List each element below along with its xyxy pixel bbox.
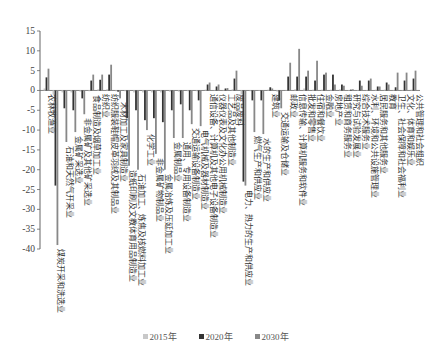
bar-2020-3 [72,90,74,110]
category-label-text: 交通运输及仓储业 [280,112,290,176]
bar-2030-14 [173,90,175,138]
category-label-text: 通用、专用设备制造业 [182,142,192,222]
category-label-text: 综合技术服务业 [361,94,371,150]
category-label: 燃气生产和供应业 [253,136,263,200]
bar-2015-23 [249,90,251,91]
category-label: 仪器仪表及文化办公用机械制造业 [218,94,228,214]
category-label: 居民服务和其他服务业 [379,94,389,174]
category-label: 木材加工及家具制造业 [119,102,129,182]
category-label: 非金属矿物制品业 [155,158,165,222]
category-label-text: 石油和天然气开采业 [65,146,75,218]
y-tick-label: 5 [30,66,35,76]
legend-swatch-2020 [199,334,204,339]
bar-2030-17 [200,90,202,126]
category-label-text: 文化、体育和娱乐业 [406,94,416,166]
category-label-text: 金属制品业 [173,142,183,182]
bar-2015-30 [312,90,314,91]
bar-2020-25 [269,87,271,90]
bar-2020-0 [46,77,48,90]
bar-2020-33 [341,85,343,91]
category-label: 废品废料 [235,94,245,126]
bar-2030-21 [236,71,238,91]
y-tick-label: -25 [22,185,35,195]
bar-2030-33 [343,86,345,91]
category-label-text: 交通运输设备制造业 [191,128,201,200]
bar-2015-5 [88,90,90,91]
category-label: 综合技术服务业 [361,94,371,150]
bar-2020-6 [99,80,101,91]
legend-item-2015: 2015年 [143,330,177,343]
category-label-text: 居民服务和其他服务业 [379,94,389,174]
bar-2030-25 [271,88,273,90]
y-tick-label: -30 [22,204,35,214]
category-label-text: 卫生、社会保障和社会福利业 [397,94,407,198]
legend-swatch-2030 [255,334,260,339]
category-label-text: 研究与试验发展业 [352,94,362,158]
bar-2020-35 [359,81,361,91]
y-tick-label: -10 [22,125,35,135]
category-label: 房地产业 [334,94,344,126]
bar-2030-35 [361,86,363,91]
bar-2015-14 [169,90,171,91]
bar-2015-25 [267,90,269,91]
category-label-text: 非金属矿物制品业 [155,158,165,222]
category-label-text: 租赁和商务服务业 [343,94,353,158]
category-label: 电力、热力的生产和供应业 [244,190,254,286]
bar-2030-6 [101,75,103,91]
bar-2030-30 [316,61,318,91]
bar-2030-4 [83,90,85,114]
category-label-text: 公共管理和社会组织 [415,94,425,166]
category-label: 石油和天然气开采业 [65,146,75,218]
bar-2015-16 [187,90,189,91]
category-label: 工艺品及其他制造业 [227,94,237,166]
category-label: 信息传输、计算机服务和软件业 [298,94,308,206]
y-tick-label: 15 [26,26,36,36]
bar-2030-32 [334,85,336,91]
bar-2030-40 [406,73,408,91]
bar-2015-29 [303,88,305,90]
y-tick-label: -35 [22,224,35,234]
category-label: 公共管理和社会组织 [415,94,425,166]
bar-2020-23 [251,90,253,100]
y-tick-label: -5 [27,105,35,115]
bar-2020-14 [171,90,173,110]
bar-2015-15 [178,90,180,91]
category-label: 纺织业 [101,94,111,118]
category-label-text: 批发和零售业 [307,94,317,142]
bar-2030-19 [218,85,220,91]
bar-2020-21 [234,79,236,91]
legend-label-2030: 2030年 [262,330,289,343]
bar-2030-16 [191,90,193,124]
category-label-text: 电力、热力的生产和供应业 [244,190,254,286]
bar-2030-18 [209,83,211,91]
category-label: 卫生、社会保障和社会福利业 [397,94,407,198]
bar-2020-8 [117,90,119,91]
bar-2030-20 [227,88,229,90]
category-label: 农林牧渔业 [47,94,57,134]
y-tick-label: 10 [26,46,36,56]
bar-2020-20 [225,88,227,90]
bar-2015-33 [339,89,341,90]
bar-2020-36 [368,81,370,91]
bar-2015-38 [384,90,386,91]
category-label: 造纸印刷及文教体育用品制造业 [128,170,138,282]
category-label-text: 信息传输、计算机服务和软件业 [298,94,308,206]
category-label-text: 电气机械及器材制造业 [200,130,210,210]
bar-2030-34 [352,89,354,90]
legend-label-2020: 2020年 [206,330,233,343]
category-label: 交通运输及仓储业 [280,112,290,176]
bar-2030-0 [48,69,50,91]
category-label-text: 非金属矿及其他矿采选业 [83,118,93,206]
category-label: 水的生产和供应业 [262,138,272,202]
bar-2030-31 [325,73,327,91]
bar-2015-2 [61,90,63,92]
category-label-text: 水的生产和供应业 [262,138,272,202]
category-label-text: 燃气生产和供应业 [253,136,263,200]
category-label: 建筑业 [271,94,281,118]
category-label-text: 通信设备、计算机及其他电子设备制造业 [209,94,219,238]
bar-2015-41 [411,90,413,91]
bar-2015-18 [205,90,207,91]
category-label-text: 金属矿采选业 [74,136,84,184]
category-label-text: 邮政业 [289,94,299,118]
category-label: 通用、专用设备制造业 [182,142,192,222]
